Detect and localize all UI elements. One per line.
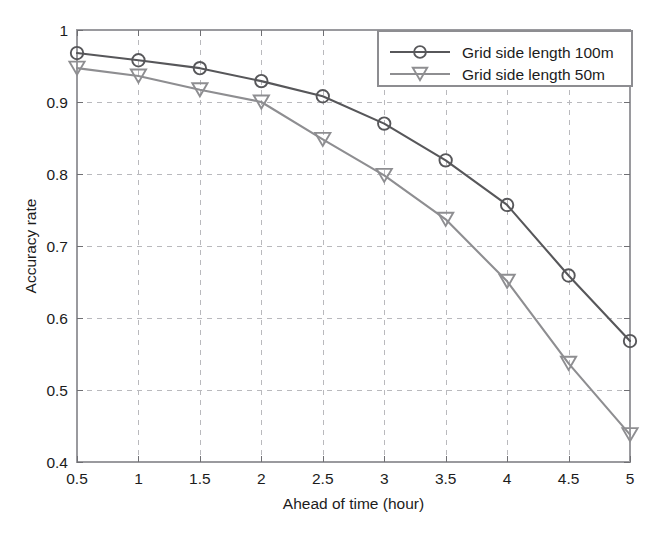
x-axis-tick-labels: 0.511.522.533.544.55 xyxy=(66,470,634,487)
legend-label: Grid side length 50m xyxy=(462,66,605,83)
y-tick-label: 0.4 xyxy=(46,454,68,471)
x-tick-label: 2 xyxy=(257,470,266,487)
accuracy-rate-line-chart: 0.511.522.533.544.55 0.40.50.60.70.80.91… xyxy=(0,0,670,535)
x-axis-title: Ahead of time (hour) xyxy=(283,495,424,512)
y-tick-label: 0.5 xyxy=(46,382,68,399)
y-tick-label: 1 xyxy=(59,22,68,39)
x-tick-label: 3.5 xyxy=(435,470,457,487)
y-tick-label: 0.6 xyxy=(46,310,68,327)
x-tick-label: 0.5 xyxy=(66,470,88,487)
x-tick-label: 1.5 xyxy=(189,470,211,487)
x-tick-label: 4.5 xyxy=(558,470,580,487)
y-tick-label: 0.9 xyxy=(46,94,68,111)
chart-legend[interactable]: Grid side length 100mGrid side length 50… xyxy=(378,31,632,86)
x-tick-label: 5 xyxy=(626,470,635,487)
y-tick-label: 0.7 xyxy=(46,238,68,255)
x-tick-label: 2.5 xyxy=(312,470,334,487)
legend-label: Grid side length 100m xyxy=(462,44,614,61)
y-tick-label: 0.8 xyxy=(46,166,68,183)
chart-figure: 0.511.522.533.544.55 0.40.50.60.70.80.91… xyxy=(0,0,670,535)
x-tick-label: 1 xyxy=(134,470,143,487)
x-tick-label: 4 xyxy=(503,470,512,487)
y-axis-title: Accuracy rate xyxy=(22,199,39,294)
x-tick-label: 3 xyxy=(380,470,389,487)
y-axis-tick-labels: 0.40.50.60.70.80.91 xyxy=(46,22,68,471)
